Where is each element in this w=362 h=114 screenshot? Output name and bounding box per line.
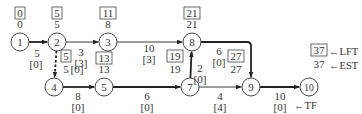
node-1-est: 0 [17,18,23,30]
node-3-est: 8 [105,18,111,30]
edge-8-9 [201,42,251,77]
node-10-id: 10 [304,83,314,93]
edges-layer [29,42,299,87]
node-9-lft: 27 [231,50,243,62]
node-5-est: 13 [99,63,111,75]
edge-4-5-total-float: [0] [72,101,85,113]
node-7-id: 7 [187,81,193,93]
node-5-id: 5 [101,81,107,93]
edge-7-8 [190,52,191,78]
node-3-id: 3 [105,36,111,48]
node-2-est: 5 [54,18,60,30]
node-8-id: 8 [189,36,195,48]
edge-8-9-total-float: [0] [213,56,226,68]
edge-5-7-total-float: [0] [141,101,154,113]
node-1-id: 1 [17,36,23,48]
node-2-id: 2 [54,36,60,48]
edge-7-8-total-float: [0] [194,73,207,85]
node-10-est: 37 [314,58,326,70]
labels-layer: 5[0]3[3]5[0]10[3]8[0]6[0]2[0]4[4]6[0]10[… [15,7,359,113]
node-9-est: 27 [231,63,243,75]
node-7-lft: 19 [170,50,182,62]
node-10-lft: 37 [314,44,326,56]
edge-2-4-duration: 5 [63,63,69,75]
node-8-est: 21 [187,18,198,30]
node-9-id: 9 [248,81,254,93]
edge-2-4 [55,51,57,77]
node-7-est: 19 [170,63,182,75]
network-diagram: 1234578910 5[0]3[3]5[0]10[3]8[0]6[0]2[0]… [0,0,362,114]
edge-7-9-total-float: [4] [214,101,227,113]
edge-9-10-total-float: [0] [274,101,287,113]
legend-lft: ←LFT [329,46,359,57]
edge-3-8-total-float: [3] [143,53,156,65]
edge-2-4-total-float: [0] [71,63,84,75]
edge-1-2-total-float: [0] [30,58,43,70]
legend-est: ←EST [329,60,359,71]
node-4-lft: 5 [63,50,69,62]
legend-tf: ←TF [294,100,317,111]
node-4-id: 4 [51,81,57,93]
